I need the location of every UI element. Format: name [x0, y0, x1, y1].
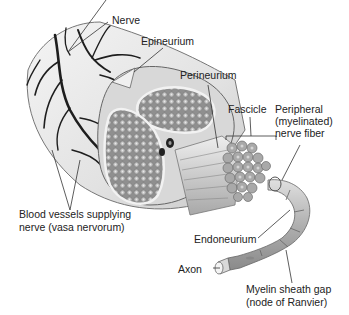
label-peripheral-fiber-line2: (myelinated): [275, 115, 333, 127]
label-nerve: Nerve: [112, 14, 140, 26]
label-perineurium: Perineurium: [180, 69, 237, 81]
nerve-illustration: [0, 0, 349, 315]
label-fascicle: Fascicle: [228, 103, 267, 115]
label-axon: Axon: [178, 263, 202, 275]
label-myelin-gap-line2: (node of Ranvier): [246, 296, 327, 308]
label-peripheral-fiber-line3: nerve fiber: [275, 127, 325, 139]
label-endoneurium: Endoneurium: [194, 233, 256, 245]
label-blood-vessels-line2: nerve (vasa nervorum): [19, 221, 125, 233]
fiber-bundle: [175, 136, 276, 215]
label-myelin-gap-line1: Myelin sheath gap: [246, 283, 331, 295]
label-peripheral-fiber-line1: Peripheral: [275, 103, 323, 115]
nerve-anatomy-diagram: Nerve Epineurium Perineurium Fascicle Pe…: [0, 0, 349, 315]
fascicle-end-cap: [223, 141, 271, 202]
label-blood-vessels-line1: Blood vessels supplying: [19, 208, 131, 220]
label-epineurium: Epineurium: [141, 35, 194, 47]
